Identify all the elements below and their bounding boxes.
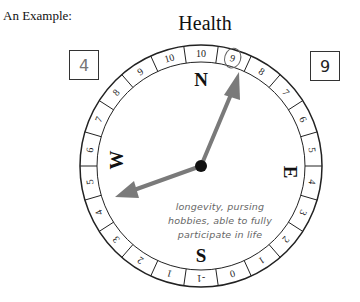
svg-text:10: 10	[163, 51, 176, 64]
svg-text:2: 2	[135, 255, 145, 267]
svg-text:4: 4	[307, 179, 319, 186]
svg-text:3: 3	[110, 234, 122, 245]
direction-south: S	[196, 245, 207, 266]
compass-dial: 109876543210-112345678910 N S E W	[0, 0, 360, 302]
direction-west: W	[106, 151, 127, 170]
note-line: hobbies, able to fully	[150, 214, 290, 228]
svg-text:3: 3	[297, 208, 309, 217]
svg-text:0: 0	[229, 268, 237, 280]
svg-text:7: 7	[280, 87, 292, 98]
svg-text:9: 9	[135, 65, 145, 77]
svg-text:1: 1	[257, 255, 267, 267]
svg-text:8: 8	[110, 87, 122, 98]
svg-text:9: 9	[229, 52, 237, 64]
direction-east: E	[280, 166, 301, 179]
note-line: participate in life	[150, 228, 290, 242]
svg-text:6: 6	[84, 147, 96, 154]
arrow-to-west	[115, 166, 201, 198]
svg-text:-1: -1	[197, 273, 205, 284]
svg-text:4: 4	[93, 208, 105, 217]
svg-text:6: 6	[297, 115, 309, 124]
svg-text:1: 1	[165, 268, 173, 280]
svg-text:7: 7	[93, 115, 105, 124]
svg-text:5: 5	[307, 147, 319, 154]
note-line: longevity, pursing	[150, 200, 290, 214]
compass-hub	[195, 160, 207, 172]
direction-north: N	[194, 69, 208, 90]
svg-text:5: 5	[84, 179, 96, 186]
svg-text:8: 8	[257, 65, 267, 77]
svg-text:10: 10	[196, 48, 206, 59]
handwritten-note: longevity, pursing hobbies, able to full…	[150, 200, 290, 242]
